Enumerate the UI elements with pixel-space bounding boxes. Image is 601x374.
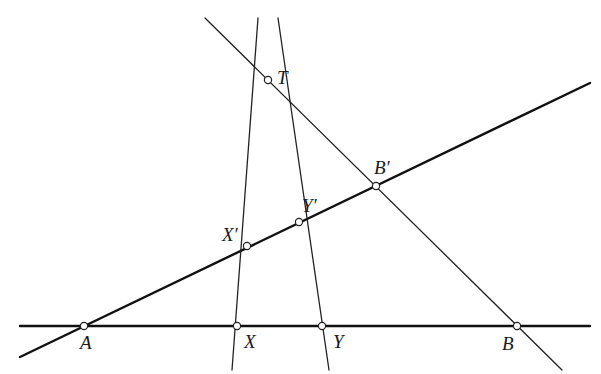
points-layer <box>80 76 520 329</box>
geometry-diagram: TAXYBX′Y′B′ <box>0 0 601 374</box>
point-t-marker <box>264 76 271 83</box>
point-xp-label: X′ <box>221 224 239 245</box>
point-y-label: Y <box>333 331 346 352</box>
point-a-label: A <box>78 332 92 353</box>
point-bp-label: B′ <box>374 157 391 178</box>
point-y-marker <box>318 322 325 329</box>
line-AB-prime <box>20 83 590 357</box>
point-xp-marker <box>243 242 250 249</box>
point-bp-marker <box>372 182 379 189</box>
point-yp-marker <box>295 218 302 225</box>
lines-layer <box>20 18 590 370</box>
point-a-marker <box>80 322 87 329</box>
point-x-label: X <box>243 331 257 352</box>
line-TX <box>232 18 258 370</box>
point-x-marker <box>233 322 240 329</box>
point-b-marker <box>513 322 520 329</box>
point-t-label: T <box>277 67 289 88</box>
line-TB <box>205 18 562 370</box>
point-yp-label: Y′ <box>302 195 318 216</box>
labels-layer: TAXYBX′Y′B′ <box>78 67 514 354</box>
point-b-label: B <box>502 333 514 354</box>
